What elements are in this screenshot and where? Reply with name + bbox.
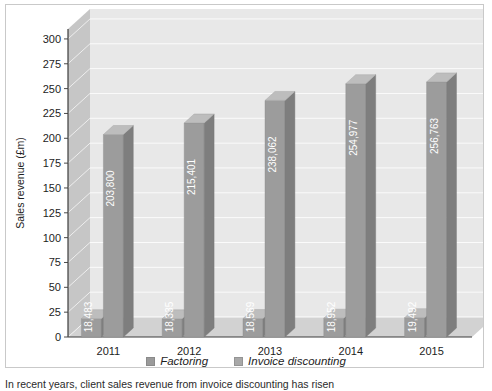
- bar-value-label-2015-invoice-discounting: 256,763: [429, 117, 440, 154]
- ytick-label-25: 25: [49, 306, 61, 318]
- bar-side-2013-invoice-discounting: [285, 91, 295, 337]
- bar-value-label-2012-invoice-discounting: 215,401: [186, 158, 197, 195]
- ytick-label-275: 275: [43, 58, 61, 70]
- plot-left-wall: [68, 9, 90, 337]
- legend-item-invoice-discounting[interactable]: Invoice discounting: [234, 355, 346, 367]
- bar-front-2013-invoice-discounting[interactable]: [265, 100, 285, 337]
- ytick-label-200: 200: [43, 132, 61, 144]
- bar-side-2014-invoice-discounting: [366, 75, 376, 337]
- ytick-label-0: 0: [55, 331, 61, 343]
- ytick-label-175: 175: [43, 157, 61, 169]
- ytick-label-225: 225: [43, 107, 61, 119]
- chart-legend: Factoring Invoice discounting: [0, 355, 492, 367]
- bar-side-2012-invoice-discounting: [204, 114, 214, 337]
- ytick-label-100: 100: [43, 232, 61, 244]
- bar-value-label-2014-factoring: 18,952: [326, 301, 337, 332]
- ytick-label-50: 50: [49, 281, 61, 293]
- bar-value-label-2013-invoice-discounting: 238,062: [267, 136, 278, 173]
- bar-value-label-2014-invoice-discounting: 254,977: [348, 119, 359, 156]
- chart-canvas: 0255075100125150175200225250275300Sales …: [6, 5, 483, 367]
- bar-chart-3d: 0255075100125150175200225250275300Sales …: [6, 5, 483, 367]
- ytick-label-150: 150: [43, 182, 61, 194]
- ytick-label-75: 75: [49, 256, 61, 268]
- bar-front-2011-invoice-discounting[interactable]: [103, 135, 123, 337]
- bar-value-label-2011-factoring: 18,483: [83, 301, 94, 332]
- bar-side-2011-invoice-discounting: [123, 126, 133, 337]
- ytick-label-250: 250: [43, 83, 61, 95]
- figure-caption: In recent years, client sales revenue fr…: [5, 378, 487, 391]
- ytick-label-125: 125: [43, 207, 61, 219]
- bar-front-2012-invoice-discounting[interactable]: [184, 123, 204, 337]
- bar-value-label-2013-factoring: 18,569: [245, 301, 256, 332]
- figure-container: 0255075100125150175200225250275300Sales …: [0, 0, 492, 391]
- legend-swatch-factoring: [146, 357, 155, 366]
- bar-value-label-2011-invoice-discounting: 203,800: [105, 170, 116, 207]
- ytick-label-300: 300: [43, 33, 61, 45]
- legend-item-factoring[interactable]: Factoring: [146, 355, 208, 367]
- bar-value-label-2012-factoring: 18,335: [164, 301, 175, 332]
- y-axis-title: Sales revenue (£m): [14, 137, 26, 229]
- legend-swatch-invoice-discounting: [234, 357, 243, 366]
- legend-label-invoice-discounting: Invoice discounting: [248, 355, 346, 367]
- bar-value-label-2015-factoring: 19,492: [407, 301, 418, 332]
- legend-label-factoring: Factoring: [160, 355, 208, 367]
- bar-side-2015-invoice-discounting: [447, 73, 457, 337]
